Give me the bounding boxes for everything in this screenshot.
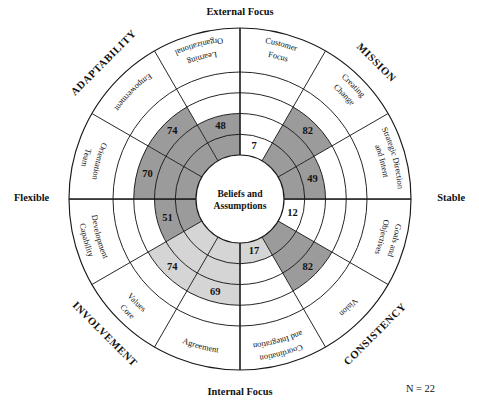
score-value: 74 xyxy=(167,261,178,272)
subindex-label: Learning xyxy=(185,50,217,67)
quadrant-label-mission: MISSION xyxy=(355,41,398,84)
subindex-label: Focus xyxy=(267,50,289,64)
subindex-label: Orientation xyxy=(90,141,109,181)
center-disc xyxy=(196,155,284,243)
subindex-label: Agreement xyxy=(181,336,220,354)
score-value: 12 xyxy=(287,207,298,218)
score-value: 82 xyxy=(303,125,314,136)
score-value: 48 xyxy=(215,120,226,131)
axis-label-right: Stable xyxy=(437,192,465,203)
axis-label-left: Flexible xyxy=(14,192,50,203)
sample-size-note: N = 22 xyxy=(406,383,435,394)
score-value: 74 xyxy=(167,125,178,136)
score-value: 7 xyxy=(251,140,256,151)
score-value: 51 xyxy=(162,212,173,223)
score-value: 49 xyxy=(307,173,318,184)
score-value: 70 xyxy=(142,168,153,179)
score-value: 82 xyxy=(303,261,314,272)
axis-label-top: External Focus xyxy=(206,6,273,17)
quadrant-label-adaptability: ADAPTABILITY xyxy=(69,28,139,98)
axis-label-bottom: Internal Focus xyxy=(208,386,273,397)
subindex-label: Vision xyxy=(337,297,359,319)
score-value: 69 xyxy=(210,286,221,297)
figure-canvas: 48782491282176974517074 OrganizationalLe… xyxy=(0,0,479,408)
center-label-line1: Beliefs and xyxy=(217,188,263,199)
score-value: 17 xyxy=(249,245,260,256)
denison-circumplex-chart: 48782491282176974517074 OrganizationalLe… xyxy=(0,0,479,408)
subindex-label: Team xyxy=(79,148,93,169)
center-label-line2: Assumptions xyxy=(214,200,267,211)
